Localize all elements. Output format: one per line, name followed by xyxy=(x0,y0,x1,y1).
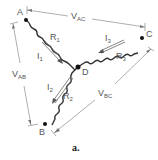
label-i2: I2 xyxy=(47,83,53,93)
figure-caption: a. xyxy=(72,142,80,153)
label-r1: R1 xyxy=(50,33,60,43)
resistor-r3 xyxy=(78,53,138,67)
node-label-c: C xyxy=(146,30,153,39)
node-a xyxy=(24,18,28,22)
label-vbc: VBC xyxy=(98,89,112,99)
label-vac: VAC xyxy=(71,12,85,22)
node-c xyxy=(140,36,144,40)
resistor-r1 xyxy=(26,20,75,70)
node-label-d: D xyxy=(82,68,89,77)
node-b xyxy=(43,122,47,126)
node-label-a: A xyxy=(17,8,23,17)
label-i3: I3 xyxy=(105,34,111,44)
node-d xyxy=(76,65,81,70)
label-r2: R2 xyxy=(63,92,73,102)
label-vab: VAB xyxy=(12,70,26,80)
node-label-b: B xyxy=(39,128,45,137)
label-i1: I1 xyxy=(37,52,43,62)
circuit-diagram xyxy=(0,0,158,160)
label-r3: R3 xyxy=(116,52,126,62)
